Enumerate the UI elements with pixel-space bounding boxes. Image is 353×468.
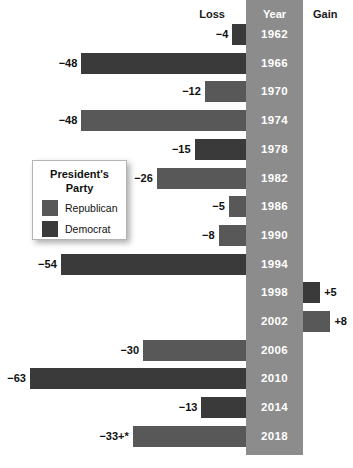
bar-1970: [205, 81, 246, 102]
bar-1978: [195, 139, 246, 160]
year-label: 2010: [246, 372, 303, 385]
year-label: 1970: [246, 85, 303, 98]
year-label: 1986: [246, 200, 303, 213]
legend-box: President's Party Republican Democrat: [32, 160, 127, 240]
year-label: 1974: [246, 114, 303, 127]
bar-1966: [81, 53, 246, 74]
value-label-1970: −12: [141, 85, 201, 98]
bar-2018: [133, 426, 246, 447]
year-label: 2006: [246, 344, 303, 357]
bar-1994: [61, 254, 246, 275]
column-header-year: Year: [246, 8, 303, 21]
value-label-2018: −33+*: [69, 430, 129, 443]
bar-2006: [143, 340, 246, 361]
value-label-1998: +5: [324, 286, 353, 299]
column-header-loss: Loss: [193, 8, 225, 21]
legend-swatch-republican: [42, 200, 58, 216]
year-label: 1978: [246, 143, 303, 156]
legend-title-line1: President's: [33, 168, 126, 182]
column-header-gain: Gain: [313, 8, 353, 21]
bar-1982: [157, 168, 246, 189]
year-label: 1962: [246, 28, 303, 41]
year-label: 1990: [246, 229, 303, 242]
bar-2002: [303, 311, 330, 332]
legend-item-democrat: Democrat: [42, 221, 126, 237]
year-label: 2018: [246, 430, 303, 443]
value-label-2014: −13: [137, 401, 197, 414]
year-label: 1966: [246, 57, 303, 70]
value-label-2006: −30: [79, 344, 139, 357]
bar-2010: [30, 368, 246, 389]
value-label-1994: −54: [0, 258, 57, 271]
bar-2014: [201, 397, 246, 418]
legend-title-line2: Party: [33, 182, 126, 196]
year-label: 1994: [246, 258, 303, 271]
year-label: 1982: [246, 172, 303, 185]
year-label: 2002: [246, 315, 303, 328]
legend-label-democrat: Democrat: [65, 223, 111, 235]
value-label-1986: −5: [165, 200, 225, 213]
value-label-1978: −15: [131, 143, 191, 156]
legend-title: President's Party: [33, 168, 126, 195]
bar-1998: [303, 282, 320, 303]
value-label-2002: +8: [334, 315, 353, 328]
bar-1986: [229, 196, 246, 217]
value-label-1962: −4: [168, 28, 228, 41]
legend-label-republican: Republican: [65, 202, 118, 214]
bar-1990: [219, 225, 246, 246]
value-label-1966: −48: [17, 57, 77, 70]
year-label: 2014: [246, 401, 303, 414]
legend-item-republican: Republican: [42, 200, 126, 216]
seat-change-chart: Loss Year Gain 1962−41966−481970−121974−…: [0, 0, 353, 468]
value-label-2010: −63: [0, 372, 26, 385]
year-label: 1998: [246, 286, 303, 299]
bar-1962: [232, 24, 246, 45]
value-label-1974: −48: [17, 114, 77, 127]
legend-swatch-democrat: [42, 221, 58, 237]
bar-1974: [81, 110, 246, 131]
value-label-1990: −8: [155, 229, 215, 242]
